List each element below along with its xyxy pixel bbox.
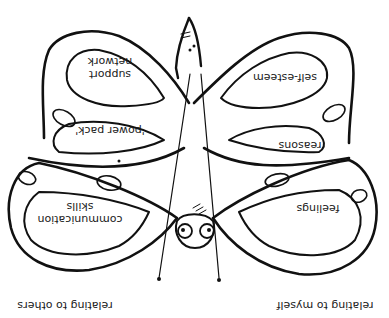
label-network: network (88, 55, 133, 68)
label-communication-skills: communication skills (37, 200, 122, 226)
label-support: support (88, 68, 133, 81)
butterfly-diagram: feelings reasons self-esteem communicati… (0, 0, 389, 318)
label-self-esteem: self-esteem (253, 71, 317, 84)
label-skills: skills (37, 200, 122, 213)
head (176, 204, 214, 248)
label-power-pack: 'power pack' (75, 124, 145, 137)
label-support-network: support network (88, 55, 133, 81)
rotated-drawing: feelings reasons self-esteem communicati… (0, 0, 389, 318)
butterfly-drawing (0, 0, 389, 318)
label-reasons: reasons (279, 139, 322, 152)
wing-right-in-image (194, 33, 377, 275)
label-feelings: feelings (296, 202, 339, 215)
caption-relating-to-myself: relating to myself (277, 299, 374, 312)
caption-relating-to-others: relating to others (17, 299, 112, 312)
label-communication: communication (37, 213, 122, 226)
antennae (157, 74, 221, 282)
body (176, 18, 201, 78)
